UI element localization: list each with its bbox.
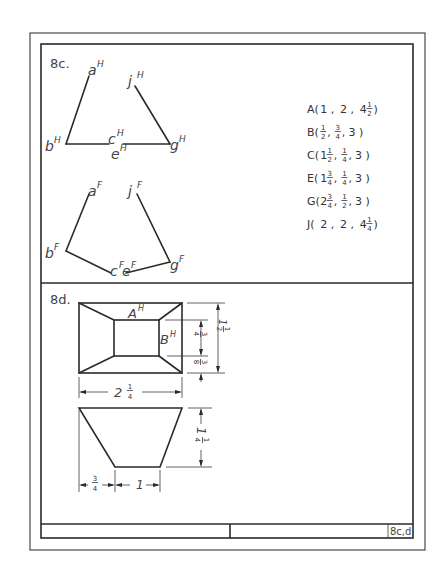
coordinate-text: , (348, 149, 352, 162)
coordinate-text: 4 (360, 103, 367, 116)
fraction: 12 (341, 193, 347, 210)
fraction-numerator: 3 (200, 360, 208, 364)
fraction-denominator: 4 (367, 225, 372, 233)
coordinate-text: 2 (320, 195, 327, 208)
dim-height: 114 (193, 427, 211, 443)
coordinate-text: , (334, 195, 338, 208)
point-label-superscript: H (138, 304, 144, 313)
point-label-superscript: H (54, 135, 61, 145)
coordinate-text: 1 (320, 149, 327, 162)
point-label-superscript: F (97, 180, 103, 190)
inner-border (41, 44, 413, 538)
coordinate-text: 3 ) (355, 172, 370, 185)
coordinate-text: , (327, 126, 331, 139)
fraction-denominator: 2 (321, 133, 325, 141)
coordinate-text: ) (373, 103, 377, 116)
point-label-b: b (45, 245, 54, 261)
dim-bottom-width: 1 (136, 478, 144, 492)
fraction-numerator: 1 (321, 124, 325, 132)
fraction-numerator: 3 (328, 193, 332, 201)
fraction: 34 (327, 193, 333, 210)
fraction-denominator: 4 (193, 438, 201, 443)
point-label-j: j (126, 183, 132, 199)
point-label-e: e (122, 263, 131, 279)
coordinate-text: ) (373, 218, 377, 231)
fraction: 14 (127, 383, 133, 401)
sheet-number: 8c,d (390, 526, 411, 537)
point-label-e: e (111, 146, 120, 162)
point-label-B: B (160, 332, 169, 347)
fraction: 38 (192, 359, 209, 365)
point-label-g: g (170, 257, 179, 273)
fraction-denominator: 4 (342, 179, 347, 187)
fraction-denominator: 4 (342, 156, 347, 164)
fraction-numerator: 3 (200, 332, 208, 336)
coordinate-text: 2 , (340, 103, 354, 116)
fraction-numerator: 1 (342, 147, 346, 155)
point-label-a: a (88, 62, 97, 78)
coordinate-text: C( (307, 149, 319, 162)
coordinate-text: 2 , (320, 218, 334, 231)
8d-width-label: 214 (114, 383, 133, 401)
coordinate-text: 4 (360, 218, 367, 231)
dim-whole: 2 (114, 385, 122, 400)
fraction: 34 (335, 124, 341, 141)
fraction: 14 (193, 437, 211, 443)
fraction-numerator: 1 (128, 383, 132, 391)
fraction-denominator: 4 (328, 202, 333, 210)
point-label-b: b (45, 138, 54, 154)
fraction-numerator: 1 (342, 170, 346, 178)
fraction-denominator: 4 (192, 332, 200, 337)
coordinate-text: E( (307, 172, 318, 185)
fraction: 14 (341, 147, 347, 164)
8d-point-labels: AHBH (127, 304, 176, 347)
coordinate-text: 3 ) (355, 195, 370, 208)
point-label-superscript: H (179, 134, 186, 144)
problem-8c-label: 8c. (50, 56, 70, 71)
coordinate-text: , (348, 195, 352, 208)
fraction-numerator: 1 (223, 327, 231, 331)
point-label-superscript: F (131, 260, 137, 270)
fraction-numerator: 3 (93, 475, 97, 483)
fraction-denominator: 2 (367, 110, 371, 118)
fraction: 14 (366, 216, 372, 233)
point-label-superscript: F (179, 254, 185, 264)
fraction-denominator: 4 (336, 133, 341, 141)
title-block: 8c,d (41, 524, 413, 538)
fraction-numerator: 3 (328, 170, 332, 178)
point-label-superscript: H (120, 143, 127, 153)
fraction-denominator: 2 (215, 327, 223, 331)
coordinate-text: G( (307, 195, 320, 208)
drawing-sheet: 8c,d 8c. aHjHbHcHeHgH aFjFbFcFeFgF A(1 ,… (0, 0, 448, 577)
coordinate-text: , (334, 172, 338, 185)
dim-total-depth: 112 (215, 319, 232, 332)
dim-whole: 1 (194, 427, 208, 435)
fraction-numerator: 1 (328, 147, 332, 155)
8c-coordinate-list: A(1 ,2 ,412)B(12,34,3 )C(112,14,3 )E(134… (306, 101, 378, 233)
fraction-numerator: 3 (336, 124, 340, 132)
fraction-numerator: 1 (202, 438, 210, 442)
point-label-g: g (170, 137, 179, 153)
fraction-numerator: 1 (342, 193, 346, 201)
fraction: 34 (92, 475, 98, 493)
coordinate-text: , (348, 172, 352, 185)
fraction-denominator: 4 (328, 179, 333, 187)
fraction: 34 (327, 170, 333, 187)
coordinate-text: , (334, 149, 338, 162)
fraction-numerator: 1 (367, 216, 371, 224)
fraction-numerator: 1 (367, 101, 371, 109)
8c-front-view (66, 194, 170, 273)
point-label-superscript: H (137, 70, 144, 80)
8d-depth-dimension-labels: 1123438 (192, 319, 232, 365)
8d-front-view (79, 408, 212, 492)
coordinate-text: 3 ) (355, 149, 370, 162)
point-label-c: c (110, 263, 118, 279)
coordinate-text: B( (307, 126, 319, 139)
point-label-c: c (108, 131, 116, 147)
coordinate-text: J( (306, 218, 315, 231)
fraction-denominator: 2 (342, 202, 346, 210)
point-label-j: j (126, 73, 132, 89)
fraction-denominator: 8 (192, 360, 200, 364)
point-label-superscript: H (117, 128, 124, 138)
point-label-superscript: H (97, 59, 104, 69)
